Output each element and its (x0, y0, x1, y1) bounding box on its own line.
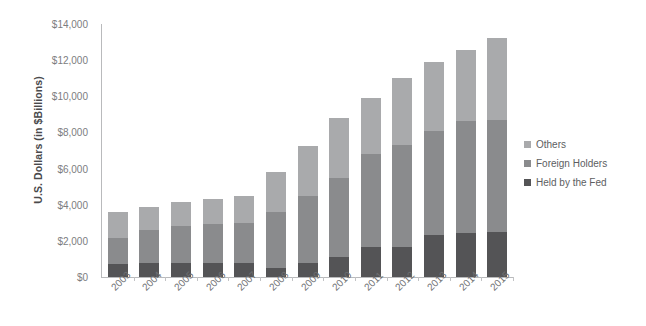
x-axis-tick-label: 2003 (109, 269, 133, 293)
x-axis-tick-mark (355, 277, 356, 281)
x-axis-tick-label: 2009 (299, 269, 323, 293)
legend-item[interactable]: Others (524, 139, 642, 150)
x-axis-tick-mark (134, 277, 135, 281)
x-axis-tick-mark (228, 277, 229, 281)
x-axis-tick-mark (165, 277, 166, 281)
x-axis-tick-label: 2013 (425, 269, 449, 293)
chart-legend: OthersForeign HoldersHeld by the Fed (524, 139, 642, 196)
x-axis-tick-mark (292, 277, 293, 281)
x-axis-tick-label: 2007 (235, 269, 259, 293)
x-axis-tick-mark (323, 277, 324, 281)
legend-item[interactable]: Held by the Fed (524, 177, 642, 188)
x-axis-tick-mark (481, 277, 482, 281)
legend-item[interactable]: Foreign Holders (524, 158, 642, 169)
x-axis-tick-label: 2010 (330, 269, 354, 293)
x-axis-tick-mark (513, 277, 514, 281)
legend-label: Others (536, 139, 566, 150)
x-axis-tick-label: 2006 (204, 269, 228, 293)
legend-swatch-icon (524, 141, 531, 148)
legend-swatch-icon (524, 160, 531, 167)
legend-swatch-icon (524, 179, 531, 186)
legend-label: Foreign Holders (536, 158, 607, 169)
x-axis-tick-label: 2011 (362, 270, 385, 293)
x-axis-tick-mark (260, 277, 261, 281)
x-axis-tick-mark (387, 277, 388, 281)
x-axis-tick-label: 2005 (172, 269, 196, 293)
legend-label: Held by the Fed (536, 177, 607, 188)
x-axis-tick-label: 2014 (457, 269, 481, 293)
x-axis-tick-label: 2015 (488, 269, 512, 293)
x-axis-tick-mark (418, 277, 419, 281)
x-axis-tick-label: 2012 (393, 269, 417, 293)
x-axis-tick-label: 2004 (140, 269, 164, 293)
stacked-bar-chart: U.S. Dollars (in $Billions) $0$2,000$4,0… (0, 0, 646, 326)
x-axis-tick-label: 2008 (267, 269, 291, 293)
x-axis-tick-mark (450, 277, 451, 281)
x-axis-tick-mark (197, 277, 198, 281)
